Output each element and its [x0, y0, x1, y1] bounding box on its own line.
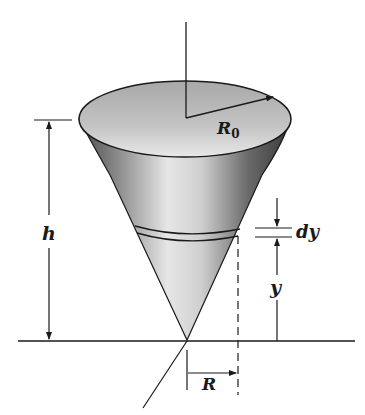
slice-thickness-label: dy [296, 221, 321, 242]
slice-height-label: y [269, 276, 283, 298]
height-dimension: h [34, 120, 72, 339]
diagonal-reference-line [143, 341, 187, 408]
slice-thickness-dimension: dy [255, 198, 321, 275]
cone-top-face [79, 81, 291, 157]
slice-radius-label: R [201, 374, 216, 394]
cone-diagram: R0 h dy y R [0, 0, 365, 415]
height-label: h [42, 222, 56, 244]
slice-radius-dimension: R [187, 350, 236, 394]
slice-height-dimension: y [269, 276, 283, 341]
